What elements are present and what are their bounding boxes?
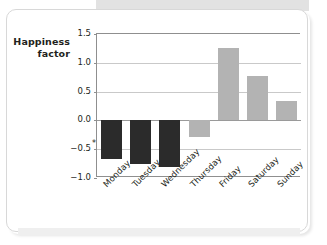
bar-thursday [189,120,210,136]
bar-wednesday [159,120,180,167]
y-axis-tick-label: 1.0 [58,57,91,67]
bar-friday [218,48,239,120]
significance-asterisk: * [92,141,96,147]
bar-tuesday [130,120,151,163]
y-axis-tick-label: −0.5 [58,143,91,153]
y-axis-tick-label: 1.5 [58,28,91,38]
bar-monday [101,120,122,159]
y-axis-tick-label: 0.0 [58,114,91,124]
bar-sunday [276,101,297,120]
y-axis-tick-label: 0.5 [58,86,91,96]
x-axis-tick-labels: MondayTuesdayWednesdayThursdayFridaySatu… [96,177,300,237]
y-axis-tick-label: −1.0 [58,172,91,182]
bar-chart-figure: Happiness factor 1.51.00.50.0−0.5−1.0 * … [0,0,327,245]
bar-saturday [247,76,268,120]
